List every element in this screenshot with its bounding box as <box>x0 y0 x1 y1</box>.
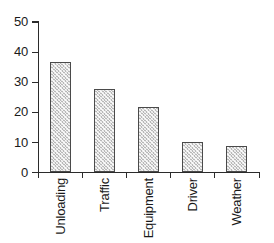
x-tick-3 <box>170 172 171 178</box>
category-label-unloading: Unloading <box>54 178 67 235</box>
y-axis-label-0: 0 <box>0 166 28 179</box>
bar-unloading <box>50 62 71 172</box>
y-axis-label-40: 40 <box>0 45 28 58</box>
bar-traffic <box>94 89 115 172</box>
category-label-wrap-4: Weather <box>226 178 246 240</box>
bar-equipment <box>138 107 159 172</box>
y-tick-20 <box>32 112 38 113</box>
bar-weather <box>226 146 247 172</box>
y-axis-line <box>38 21 39 173</box>
y-axis-label-20: 20 <box>0 105 28 118</box>
category-label-driver: Driver <box>186 178 199 211</box>
x-tick-0 <box>38 172 39 178</box>
y-axis-label-30: 30 <box>0 75 28 88</box>
x-tick-2 <box>126 172 127 178</box>
y-tick-50 <box>32 21 38 22</box>
category-label-wrap-0: Unloading <box>50 178 70 240</box>
category-label-traffic: Traffic <box>98 178 111 212</box>
y-axis-label-50: 50 <box>0 15 28 28</box>
x-tick-1 <box>82 172 83 178</box>
category-label-wrap-1: Traffic <box>94 178 114 240</box>
bar-driver <box>182 142 203 172</box>
category-label-weather: Weather <box>230 178 243 226</box>
category-label-wrap-3: Driver <box>182 178 202 240</box>
bar-chart: 50 40 30 20 10 0 Unloading Traffic Equip… <box>0 0 274 243</box>
category-label-wrap-2: Equipment <box>138 178 158 240</box>
x-axis-line <box>38 172 260 173</box>
x-tick-4 <box>214 172 215 178</box>
x-tick-5 <box>259 172 260 178</box>
y-tick-40 <box>32 52 38 53</box>
y-tick-30 <box>32 82 38 83</box>
category-label-equipment: Equipment <box>142 178 155 238</box>
y-tick-10 <box>32 142 38 143</box>
y-axis-label-10: 10 <box>0 136 28 149</box>
